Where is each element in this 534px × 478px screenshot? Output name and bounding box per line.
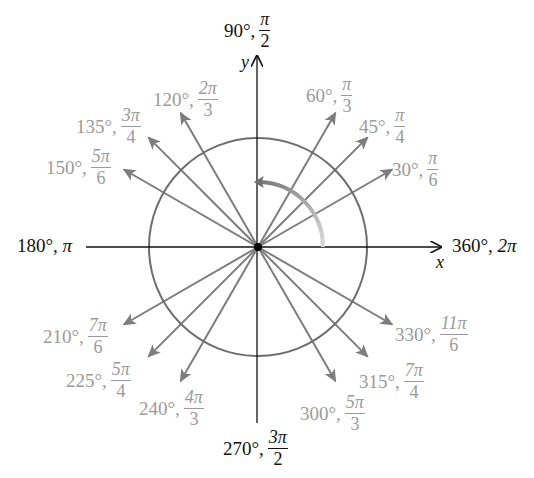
label-360-deg: 360°, 2π	[452, 236, 517, 255]
x-axis-label: x	[436, 252, 444, 273]
origin-point	[254, 243, 262, 251]
label-30-deg: 30°, π6	[392, 149, 438, 190]
unit-circle-diagram: y x 90°, π2 180°, π 270°, 3π2 360°, 2π 3…	[0, 0, 534, 478]
label-150-deg: 150°, 5π6	[46, 147, 111, 188]
label-210-deg: 210°, 7π6	[43, 316, 108, 357]
y-axis-label: y	[241, 52, 249, 73]
label-135-deg: 135°, 3π4	[76, 106, 141, 147]
label-300-deg: 300°, 5π3	[300, 393, 365, 434]
label-330-deg: 330°, 11π6	[395, 314, 468, 355]
label-270-deg: 270°, 3π2	[223, 428, 288, 469]
label-315-deg: 315°, 7π4	[359, 361, 424, 402]
label-60-deg: 60°, π3	[306, 75, 352, 116]
label-45-deg: 45°, π4	[359, 106, 405, 147]
label-120-deg: 120°, 2π3	[153, 79, 218, 120]
label-225-deg: 225°, 5π4	[66, 360, 131, 401]
label-240-deg: 240°, 4π3	[139, 388, 204, 429]
label-180-deg: 180°, π	[17, 236, 72, 255]
label-90-deg: 90°, π2	[224, 10, 270, 51]
